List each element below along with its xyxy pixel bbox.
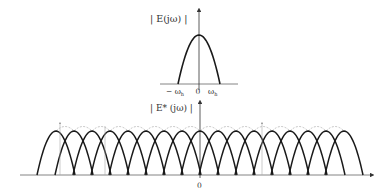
top-ylabel: | E(jω) | (150, 13, 187, 25)
bottom-plot: | E* (jω) | 0 (20, 102, 372, 190)
envelope-segment (146, 127, 164, 132)
envelope-segment (56, 127, 74, 132)
envelope-segment (128, 127, 146, 132)
envelope-segment (326, 127, 344, 132)
top-xtick-neg: − ωh (166, 87, 185, 97)
top-plot: | E(jω) | − ωh 0 ωh (150, 10, 238, 97)
envelope-segment (290, 127, 308, 132)
envelope-segment (308, 127, 326, 132)
envelope-segment (74, 127, 92, 132)
envelope-segment (236, 127, 254, 132)
spectrum-diagram: | E(jω) | − ωh 0 ωh | E* (jω) | 0 (0, 0, 392, 194)
envelope-segment (254, 127, 272, 132)
bottom-ylabel: | E* (jω) | (150, 103, 193, 114)
top-xtick-zero: 0 (196, 87, 201, 96)
top-xtick-pos: ωh (208, 87, 218, 97)
envelope-segment (92, 127, 110, 132)
envelope-segment (110, 127, 128, 132)
envelope-segment (272, 127, 290, 132)
bottom-xtick-zero: 0 (197, 181, 202, 190)
envelope-segment (164, 127, 182, 132)
envelope-segment (200, 127, 218, 132)
envelope-segment (182, 127, 200, 132)
envelope-segment (218, 127, 236, 132)
